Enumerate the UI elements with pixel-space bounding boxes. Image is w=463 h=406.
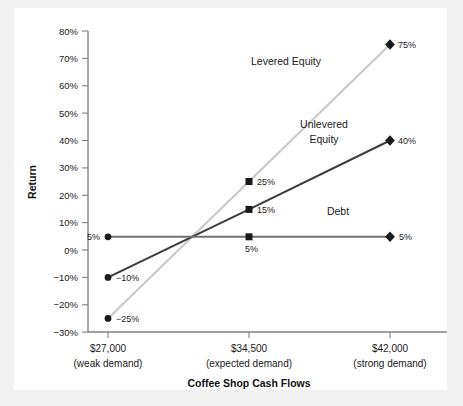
point-label-debt-left: 5% bbox=[87, 232, 100, 242]
series-levered-equity bbox=[105, 39, 395, 322]
point-label-levered-right: 75% bbox=[398, 40, 416, 50]
debt-point-strong bbox=[385, 232, 395, 242]
series-label-levered-equity: Levered Equity bbox=[251, 55, 322, 67]
point-label-levered-mid: 25% bbox=[257, 177, 275, 187]
x-axis-title: Coffee Shop Cash Flows bbox=[187, 377, 310, 389]
point-label-levered-left: −25% bbox=[116, 314, 139, 324]
y-axis-ticks bbox=[82, 31, 88, 332]
x-tick-label-expected-sub: (expected demand) bbox=[206, 358, 292, 369]
x-tick-labels: $27,000 (weak demand) $34,500 (expected … bbox=[74, 343, 427, 369]
debt-point-weak bbox=[105, 233, 112, 240]
levered-equity-point-weak bbox=[105, 315, 112, 322]
y-tick-label-50: 50% bbox=[59, 108, 79, 119]
debt-point-expected bbox=[246, 233, 253, 240]
series-label-unlevered-equity-line2: Equity bbox=[309, 133, 339, 145]
y-axis-title: Return bbox=[26, 165, 38, 199]
y-tick-label-30: 30% bbox=[59, 162, 79, 173]
series-unlevered-equity bbox=[105, 135, 395, 280]
x-tick-label-weak-value: $27,000 bbox=[90, 343, 127, 354]
x-tick-label-strong-value: $42,000 bbox=[372, 343, 409, 354]
point-label-unlevered-mid: 15% bbox=[257, 205, 275, 215]
y-tick-label-20: 20% bbox=[59, 190, 79, 201]
y-tick-label-40: 40% bbox=[59, 135, 79, 146]
series-debt bbox=[105, 232, 395, 242]
y-tick-labels: 80% 70% 60% 50% 40% 30% 20% 10% 0% −10% … bbox=[53, 26, 78, 338]
levered-equity-point-expected bbox=[246, 178, 253, 185]
point-label-unlevered-left: −10% bbox=[116, 273, 139, 283]
y-tick-label-m20: −20% bbox=[53, 299, 78, 310]
y-tick-label-10: 10% bbox=[59, 217, 79, 228]
x-tick-label-expected-value: $34,500 bbox=[231, 343, 268, 354]
point-label-debt-mid: 5% bbox=[245, 244, 258, 254]
series-label-unlevered-equity-line1: Unlevered bbox=[300, 118, 348, 130]
y-tick-label-0: 0% bbox=[64, 245, 78, 256]
x-tick-label-strong-sub: (strong demand) bbox=[353, 358, 426, 369]
point-label-debt-right: 5% bbox=[399, 232, 412, 242]
series-label-debt: Debt bbox=[327, 205, 349, 217]
y-tick-label-m30: −30% bbox=[53, 327, 78, 338]
x-axis-ticks bbox=[108, 332, 390, 338]
series-name-labels: Levered Equity Unlevered Equity Debt bbox=[251, 55, 349, 217]
y-tick-label-60: 60% bbox=[59, 80, 79, 91]
unlevered-equity-point-strong bbox=[385, 135, 395, 145]
x-tick-label-weak-sub: (weak demand) bbox=[74, 358, 143, 369]
y-tick-label-80: 80% bbox=[59, 26, 79, 37]
y-tick-label-m10: −10% bbox=[53, 272, 78, 283]
unlevered-equity-point-weak bbox=[105, 274, 112, 281]
y-tick-label-70: 70% bbox=[59, 53, 79, 64]
unlevered-equity-point-expected bbox=[246, 206, 253, 213]
point-label-unlevered-right: 40% bbox=[398, 136, 416, 146]
return-vs-cash-flow-chart: 80% 70% 60% 50% 40% 30% 20% 10% 0% −10% … bbox=[0, 0, 463, 406]
